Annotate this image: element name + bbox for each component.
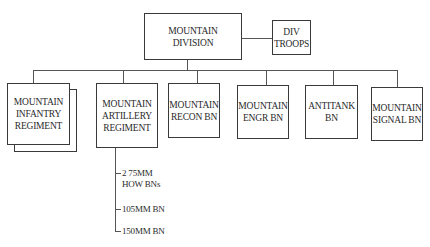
mountain-artillery-regiment-box: MOUNTAIN ARTILLERY REGIMENT xyxy=(96,83,158,148)
drop-antitank xyxy=(333,70,334,85)
infantry-line2: INFANTRY xyxy=(14,108,63,120)
engr-line1: MOUNTAIN xyxy=(238,100,287,112)
div-troops-box: DIV TROOPS xyxy=(272,20,311,55)
mountain-infantry-regiment-box: MOUNTAIN INFANTRY REGIMENT xyxy=(7,83,70,145)
antitank-line1: ANTITANK xyxy=(308,100,355,112)
drop-signal xyxy=(397,70,398,87)
antitank-bn-box: ANTITANK BN xyxy=(305,85,358,139)
recon-line1: MOUNTAIN xyxy=(169,99,218,111)
antitank-line2: BN xyxy=(308,112,355,124)
artillery-line3: REGIMENT xyxy=(102,122,152,134)
subunit-150mm-label: 150MM BN xyxy=(122,226,165,237)
subunit-105mm-bn: 105MM BN xyxy=(122,204,165,215)
engr-line2: ENGR BN xyxy=(238,112,287,124)
artillery-line2: ARTILLERY xyxy=(102,110,152,122)
subunit-75mm-line1: 2 75MM xyxy=(122,168,160,179)
infantry-line1: MOUNTAIN xyxy=(14,96,63,108)
subunit-105mm-label: 105MM BN xyxy=(122,204,165,215)
drop-engr xyxy=(266,70,267,85)
infantry-line3: REGIMENT xyxy=(14,120,63,132)
signal-line1: MOUNTAIN xyxy=(372,102,421,114)
drop-artillery xyxy=(123,70,124,83)
root-to-div-troops-connector xyxy=(242,38,272,39)
subunit-tick-3 xyxy=(115,231,121,232)
recon-line2: RECON BN xyxy=(169,111,218,123)
mountain-signal-bn-box: MOUNTAIN SIGNAL BN xyxy=(371,87,423,141)
signal-line2: SIGNAL BN xyxy=(372,114,421,126)
mountain-engr-bn-box: MOUNTAIN ENGR BN xyxy=(237,85,289,139)
subunit-75mm-line2: HOW BNs xyxy=(122,179,160,190)
drop-infantry xyxy=(33,70,34,83)
div-troops-line2: TROOPS xyxy=(274,38,309,50)
subunit-tick-2 xyxy=(115,209,121,210)
artillery-subunit-trunk xyxy=(115,148,116,231)
root-label-line2: DIVISION xyxy=(168,37,217,49)
main-horizontal-bar xyxy=(33,70,397,71)
artillery-line1: MOUNTAIN xyxy=(102,98,152,110)
subunit-tick-1 xyxy=(115,173,121,174)
subunit-75mm-how: 2 75MM HOW BNs xyxy=(122,168,160,190)
drop-recon xyxy=(197,70,198,83)
mountain-recon-bn-box: MOUNTAIN RECON BN xyxy=(168,83,220,138)
mountain-division-box: MOUNTAIN DIVISION xyxy=(144,13,242,60)
subunit-150mm-bn: 150MM BN xyxy=(122,226,165,237)
div-troops-line1: DIV xyxy=(274,26,309,38)
root-label-line1: MOUNTAIN xyxy=(168,25,217,37)
root-down-connector xyxy=(187,60,188,70)
